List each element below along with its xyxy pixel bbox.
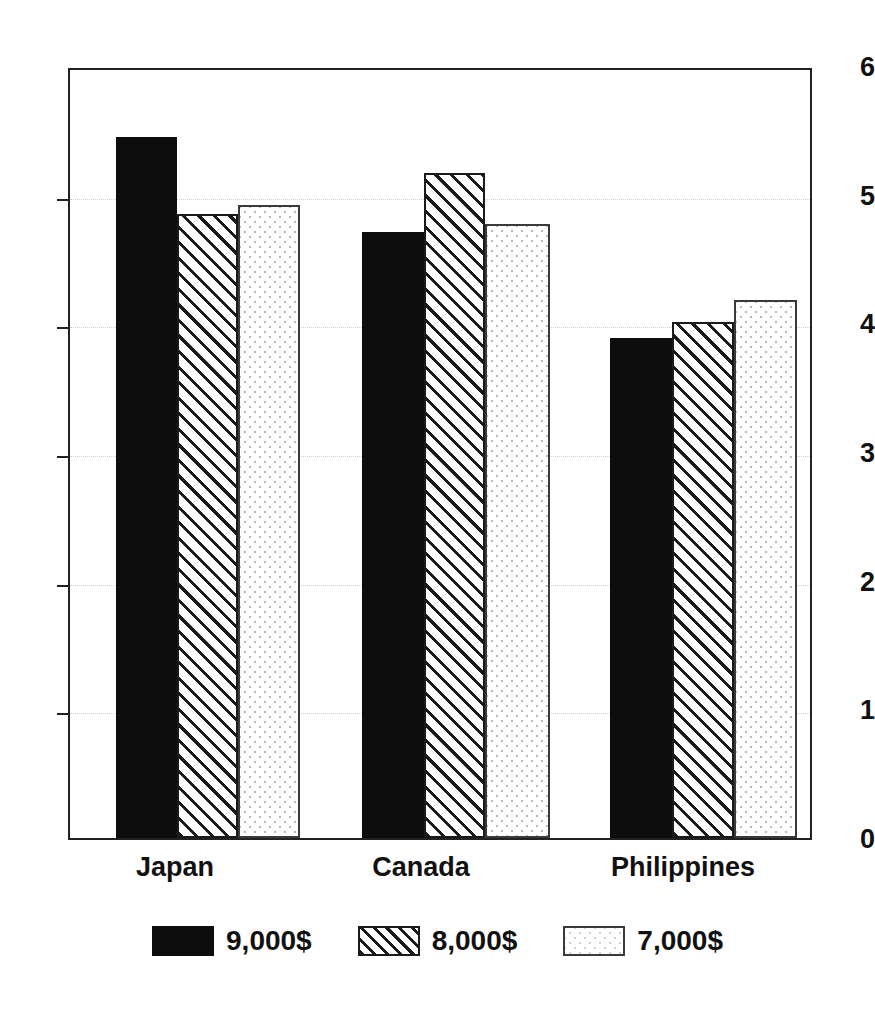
legend-swatch-solid-icon: [152, 926, 214, 956]
bar-canada-7000: [485, 224, 550, 838]
bar-canada-9000: [362, 232, 424, 838]
bar-philippines-8000: [672, 322, 734, 838]
y-axis-tick-label: 5: [831, 183, 875, 210]
legend-item-8000: 8,000$: [358, 925, 518, 957]
legend-swatch-dotted-icon: [563, 926, 625, 956]
y-axis-tick-label: 4: [831, 311, 875, 338]
y-axis-tick: [57, 327, 70, 329]
bar-philippines-9000: [610, 338, 672, 839]
y-axis-tick-label: 0: [831, 826, 875, 853]
y-axis-tick: [57, 585, 70, 587]
bar-japan-9000: [116, 137, 177, 838]
y-axis-tick-label: 2: [831, 569, 875, 596]
y-axis-tick: [57, 456, 70, 458]
bar-philippines-7000: [734, 300, 797, 838]
bar-japan-8000: [177, 214, 238, 838]
legend-label: 9,000$: [226, 925, 312, 957]
bar-canada-8000: [424, 173, 485, 838]
y-axis-tick: [57, 199, 70, 201]
x-axis-category-label-japan: Japan: [110, 852, 240, 883]
y-axis-tick-label: 6: [831, 54, 875, 81]
bar-chart: 6 5 4 3 2 1 0 Japan Canada: [0, 0, 875, 1025]
chart-legend: 9,000$ 8,000$ 7,000$: [0, 925, 875, 957]
plot-area: [68, 68, 812, 840]
y-axis-tick-label: 1: [831, 697, 875, 724]
legend-item-7000: 7,000$: [563, 925, 723, 957]
legend-label: 8,000$: [432, 925, 518, 957]
legend-label: 7,000$: [637, 925, 723, 957]
y-axis-tick: [57, 713, 70, 715]
y-axis-tick-label: 3: [831, 440, 875, 467]
x-axis-category-label-canada: Canada: [356, 852, 486, 883]
bar-japan-7000: [238, 205, 300, 838]
x-axis-category-label-philippines: Philippines: [588, 852, 778, 883]
legend-swatch-hatch-icon: [358, 926, 420, 956]
legend-item-9000: 9,000$: [152, 925, 312, 957]
